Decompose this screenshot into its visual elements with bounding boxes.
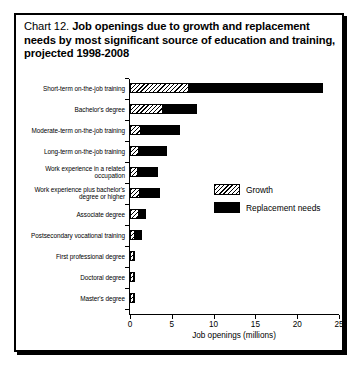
bar-segment-replacement [162,104,197,114]
x-axis-tick-label: 15 [243,320,267,329]
bar-segment-replacement [133,293,136,303]
y-axis-tick [125,267,129,268]
category-label: Doctoral degree [21,274,125,281]
x-axis-title: Job openings (millions) [129,331,339,340]
x-axis-tick-label: 5 [160,320,184,329]
y-axis-tick [125,225,129,226]
bar-segment-replacement [134,230,142,240]
x-axis-tick-label: 10 [202,320,226,329]
category-label: First professional degree [21,253,125,260]
x-axis-tick [255,315,256,319]
bar-segment-replacement [188,83,323,93]
bar-segment-replacement [138,209,146,219]
bar-segment-replacement [138,146,166,156]
category-label: Work experience plus bachelor's degree o… [21,186,125,201]
x-axis-tick [130,315,131,319]
category-label: Moderate-term on-the-job training [21,127,125,134]
y-axis-tick [125,120,129,121]
legend-swatch-replacement [214,202,240,213]
y-axis-tick [125,246,129,247]
y-axis-tick [125,288,129,289]
y-axis-tick [125,141,129,142]
y-axis-tick [125,99,129,100]
x-axis-tick [214,315,215,319]
x-axis-tick [172,315,173,319]
x-axis-tick-label: 25 [327,320,351,329]
plot-area: Short-term on-the-job trainingBachelor's… [16,15,342,350]
x-axis-tick-label: 0 [118,320,142,329]
bar-segment-replacement [139,188,160,198]
x-axis-tick [339,315,340,319]
x-axis-line [129,314,339,315]
y-axis-tick [125,309,129,310]
category-label: Work experience in a related occupation [21,165,125,180]
category-label: Associate degree [21,211,125,218]
legend-label-replacement: Replacement needs [246,203,321,213]
legend-swatch-growth [214,184,240,195]
category-label: Short-term on-the-job training [21,85,125,92]
y-axis-tick [125,78,129,79]
bar-segment-replacement [133,272,136,282]
y-axis-tick [125,183,129,184]
bar-segment-replacement [133,251,136,261]
legend-label-growth: Growth [246,185,273,195]
x-axis-tick-label: 20 [285,320,309,329]
bar-segment-replacement [137,167,159,177]
category-label: Bachelor's degree [21,106,125,113]
chart-card: Chart 12. Job openings due to growth and… [14,13,344,352]
category-label: Long-term on-the-job training [21,148,125,155]
bar-segment-growth [130,83,189,93]
y-axis-tick [125,204,129,205]
bar-segment-growth [130,104,163,114]
bar-segment-replacement [140,125,180,135]
y-axis-tick [125,162,129,163]
category-label: Postsecondary vocational training [21,232,125,239]
category-label: Master's degree [21,295,125,302]
x-axis-tick [297,315,298,319]
